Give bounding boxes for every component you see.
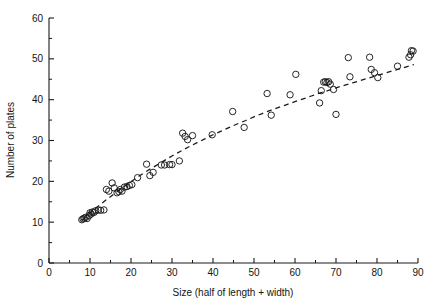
y-tick-label: 0	[37, 258, 43, 269]
x-tick-label: 0	[46, 267, 52, 278]
y-tick-label: 50	[32, 53, 44, 64]
x-tick-label: 90	[412, 267, 424, 278]
y-tick-label: 20	[32, 176, 44, 187]
y-tick-label: 30	[32, 135, 44, 146]
scatter-plot-figure: 0102030405060708090 0102030405060 Size (…	[0, 0, 431, 303]
plot-background	[0, 0, 431, 303]
x-tick-label: 80	[371, 267, 383, 278]
x-tick-label: 20	[125, 267, 137, 278]
x-tick-label: 10	[84, 267, 96, 278]
x-tick-label: 60	[289, 267, 301, 278]
x-axis-title: Size (half of length + width)	[173, 287, 294, 298]
y-tick-label: 10	[32, 217, 44, 228]
y-tick-label: 40	[32, 94, 44, 105]
y-axis-title: Number of plates	[5, 102, 16, 178]
x-tick-label: 30	[166, 267, 178, 278]
chart-canvas: 0102030405060708090 0102030405060 Size (…	[0, 0, 431, 303]
y-tick-label: 60	[32, 13, 44, 24]
x-tick-label: 70	[330, 267, 342, 278]
x-tick-label: 50	[248, 267, 260, 278]
x-tick-label: 40	[207, 267, 219, 278]
